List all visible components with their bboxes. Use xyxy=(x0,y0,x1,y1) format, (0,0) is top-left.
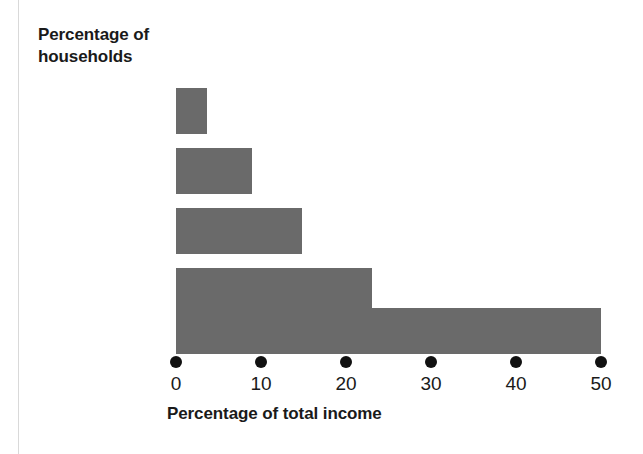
x-axis-tick-dot xyxy=(425,356,437,368)
bar xyxy=(176,148,252,194)
x-axis-tick-dot xyxy=(510,356,522,368)
x-axis-tick-label: 30 xyxy=(420,373,441,395)
x-axis-tick-dot xyxy=(340,356,352,368)
x-axis-tick-label: 40 xyxy=(505,373,526,395)
x-axis-tick-labels: 01020304050 xyxy=(0,373,643,399)
x-axis-tick-dot xyxy=(170,356,182,368)
x-axis-tick-label: 10 xyxy=(250,373,271,395)
x-axis-tick-label: 20 xyxy=(335,373,356,395)
x-axis-tick-dot xyxy=(595,356,607,368)
x-axis-tick-markers xyxy=(0,356,643,374)
x-axis-tick-label: 50 xyxy=(590,373,611,395)
bar xyxy=(176,208,302,254)
income-distribution-bar-chart: Percentage of households Lowest fifthSec… xyxy=(0,0,643,454)
x-axis-tick-dot xyxy=(255,356,267,368)
bar xyxy=(176,308,601,354)
bar xyxy=(176,88,207,134)
x-axis-tick-label: 0 xyxy=(171,373,182,395)
x-axis-title: Percentage of total income xyxy=(167,404,382,424)
